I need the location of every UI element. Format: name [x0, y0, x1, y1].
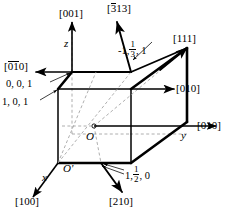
leader-101 — [40, 90, 57, 100]
vector-210 — [101, 163, 122, 192]
label-direction-0bar1bar0: [010] — [4, 61, 28, 72]
coord-prefix: 1, — [125, 170, 133, 181]
label-direction-210: [210] — [109, 196, 133, 207]
fraction-one-half: 12 — [133, 165, 140, 184]
coord-suffix: , 1 — [136, 45, 147, 56]
leader-lines — [40, 42, 152, 174]
coord-suffix: , 0 — [139, 170, 150, 181]
crystal-direction-figure: [001] [313] [111] [010] -1,13, 1 [010] [… — [0, 0, 234, 214]
leader-210-coord — [104, 164, 124, 170]
label-direction-001: [001] — [59, 8, 83, 19]
fraction-numerator: 1 — [129, 40, 136, 49]
label-direction-010-lower: [010] — [197, 120, 221, 131]
cube-edges — [58, 48, 187, 163]
fraction-numerator: 1 — [133, 165, 140, 174]
vector-111 — [160, 48, 187, 70]
cube-hidden-edges — [72, 72, 187, 134]
overbar-digit-3: 3 — [111, 3, 117, 14]
fraction-denominator: 3 — [129, 49, 136, 59]
fraction-denominator: 2 — [133, 174, 140, 184]
label-coord-101: 1, 0, 1 — [2, 97, 28, 108]
label-direction-010-upper: [010] — [176, 83, 200, 94]
label-origin-O-prime: O' — [63, 163, 73, 174]
coord-prefix: -1, — [118, 45, 129, 56]
label-direction-313bar: [313] — [107, 3, 131, 14]
label-coord-minus1-third-1: -1,13, 1 — [118, 41, 146, 60]
bracket-close: ] — [127, 2, 131, 14]
label-direction-111: [111] — [173, 33, 196, 44]
figure-artwork — [0, 0, 234, 214]
label-origin-O: O — [86, 131, 94, 142]
axis-label-z: z — [64, 38, 68, 49]
overbar-digit-1: 1 — [13, 61, 19, 72]
label-coord-001: 0, 0, 1 — [6, 79, 32, 90]
fraction-one-third: 13 — [129, 40, 136, 59]
axis-label-x: x — [42, 172, 47, 183]
axis-label-y: y — [181, 130, 186, 141]
label-direction-100: [100] — [15, 196, 39, 207]
bracket-close: ] — [24, 60, 28, 72]
label-coord-1-half-0: 1,12, 0 — [125, 166, 150, 185]
